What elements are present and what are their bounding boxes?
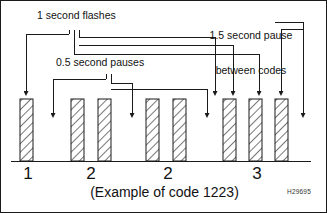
- flash-bar: [275, 99, 288, 161]
- digit-label-2a: 2: [76, 164, 106, 184]
- flash-bar: [98, 99, 111, 161]
- annotation-one-second-flashes: 1 second flashes: [37, 10, 116, 22]
- digit-label-3: 3: [242, 164, 272, 184]
- annotation-one-point-five-second-pause: 1.5 second pause between codes: [191, 6, 311, 100]
- digit-label-1: 1: [13, 164, 43, 184]
- flash-bar: [173, 99, 186, 161]
- flash-bar: [223, 99, 236, 161]
- annotation-half-second-pauses: 0.5 second pauses: [56, 57, 144, 69]
- flash-bar: [20, 99, 33, 161]
- annotation-pause15-line2: between codes: [191, 65, 311, 77]
- figure-code: H29695: [287, 188, 311, 195]
- figure-container: 1 second flashes 0.5 second pauses 1.5 s…: [0, 0, 327, 213]
- flash-bars: [20, 99, 288, 161]
- figure-caption: (Example of code 1223): [1, 185, 327, 201]
- annotation-pause15-line1: 1.5 second pause: [191, 30, 311, 42]
- digit-label-2b: 2: [153, 164, 183, 184]
- flash-bar: [249, 99, 262, 161]
- flash-bar: [146, 99, 159, 161]
- flash-bar: [71, 99, 84, 161]
